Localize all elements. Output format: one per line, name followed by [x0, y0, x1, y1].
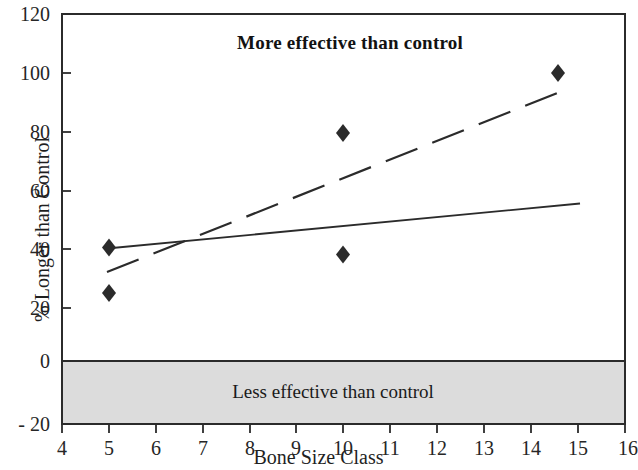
- annotation-less-effective: Less effective than control: [232, 381, 434, 403]
- x-axis-ticks: [62, 424, 625, 433]
- data-point-marker: [336, 124, 350, 142]
- data-point-marker: [336, 246, 350, 264]
- y-tick-label-minus-20: - 20: [0, 414, 50, 434]
- y-tick-label-120: 120: [0, 4, 50, 24]
- annotation-more-effective: More effective than control: [237, 32, 463, 54]
- data-point-markers: [102, 64, 565, 302]
- x-axis-title: Bone Size Class: [0, 446, 637, 469]
- y-axis-title: % Longer than Control: [31, 100, 54, 360]
- data-point-marker: [102, 239, 116, 257]
- data-point-marker: [551, 64, 565, 82]
- dashed-trend-line: [107, 92, 560, 272]
- solid-trend-line: [107, 204, 580, 249]
- data-point-marker: [102, 284, 116, 302]
- y-tick-label-100: 100: [0, 63, 50, 83]
